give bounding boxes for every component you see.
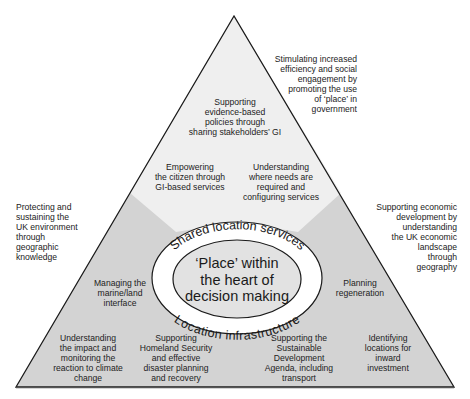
label-line: configuring services [233, 192, 329, 202]
label-sustainable-development: Supporting the Sustainable Development A… [256, 333, 342, 383]
label-line: geographic [16, 242, 96, 252]
label-line: sharing stakeholders’ GI [180, 127, 290, 137]
label-line: Stimulating increased [264, 54, 357, 64]
label-economic-development: Supporting economic development by under… [362, 202, 457, 272]
label-line: Managing the [85, 278, 155, 288]
core-line: decision making [177, 288, 297, 305]
label-line: knowledge [16, 252, 96, 262]
label-line: locations for [352, 343, 424, 353]
label-line: the impact and [48, 343, 128, 353]
label-line: engagement by [264, 74, 357, 84]
core-line: ‘Place’ within [177, 255, 297, 272]
label-line: change [48, 373, 128, 383]
label-line: Supporting [133, 333, 219, 343]
label-line: the citizen through [145, 172, 235, 182]
label-line: reaction to climate [48, 363, 128, 373]
label-line: efficiency and social [264, 64, 357, 74]
label-line: through [16, 232, 96, 242]
label-line: inward [352, 353, 424, 363]
core-line: the heart of [177, 272, 297, 289]
label-line: and effective [133, 353, 219, 363]
label-line: understanding [362, 222, 457, 232]
label-line: where needs are [233, 172, 329, 182]
label-line: Empowering [145, 162, 235, 172]
label-line: Understanding [48, 333, 128, 343]
label-line: Agenda, including [256, 363, 342, 373]
label-line: sustaining the [16, 212, 96, 222]
label-line: regeneration [328, 288, 392, 298]
label-line: Planning [328, 278, 392, 288]
label-line: monitoring the [48, 353, 128, 363]
label-line: GI-based services [145, 182, 235, 192]
label-line: Homeland Security [133, 343, 219, 353]
label-line: government [264, 104, 357, 114]
label-line: promoting the use [264, 84, 357, 94]
label-line: required and [233, 182, 329, 192]
label-line: Supporting the [256, 333, 342, 343]
label-protecting-environment: Protecting and sustaining the UK environ… [16, 202, 96, 262]
label-line: development by [362, 212, 457, 222]
label-marine-land: Managing the marine/land interface [85, 278, 155, 308]
label-line: Supporting economic [362, 202, 457, 212]
label-line: of ‘place’ in [264, 94, 357, 104]
label-empowering-citizen: Empowering the citizen through GI-based … [145, 162, 235, 192]
label-understanding-needs: Understanding where needs are required a… [233, 162, 329, 202]
core-text: ‘Place’ within the heart of decision mak… [177, 255, 297, 305]
label-line: policies through [180, 117, 290, 127]
label-stimulating-efficiency: Stimulating increased efficiency and soc… [264, 54, 357, 114]
label-climate-change: Understanding the impact and monitoring … [48, 333, 128, 383]
label-line: transport [256, 373, 342, 383]
label-line: marine/land [85, 288, 155, 298]
label-line: Development [256, 353, 342, 363]
label-line: Protecting and [16, 202, 96, 212]
label-line: Identifying [352, 333, 424, 343]
label-line: UK environment [16, 222, 96, 232]
label-line: geography [362, 262, 457, 272]
label-line: Understanding [233, 162, 329, 172]
label-line: the UK economic [362, 232, 457, 242]
label-line: Sustainable [256, 343, 342, 353]
label-line: investment [352, 363, 424, 373]
label-homeland-security: Supporting Homeland Security and effecti… [133, 333, 219, 383]
label-line: through [362, 252, 457, 262]
label-line: interface [85, 298, 155, 308]
label-line: landscape [362, 242, 457, 252]
label-inward-investment: Identifying locations for inward investm… [352, 333, 424, 373]
label-planning-regeneration: Planning regeneration [328, 278, 392, 298]
label-line: and recovery [133, 373, 219, 383]
label-line: disaster planning [133, 363, 219, 373]
